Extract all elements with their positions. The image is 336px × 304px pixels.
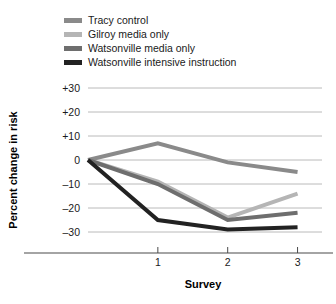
chart-plot-area: +30+20+100–10–20–30 123 Percent change i… xyxy=(0,0,336,304)
chart-x-tick-labels: 123 xyxy=(155,256,301,268)
y-tick-label: –10 xyxy=(62,178,80,190)
chart-axes xyxy=(24,247,333,253)
y-axis-title: Percent change in risk xyxy=(7,110,19,228)
y-tick-label: +10 xyxy=(62,130,80,142)
y-tick-label: +30 xyxy=(62,82,80,94)
y-tick-label: –20 xyxy=(62,202,80,214)
chart-series-group xyxy=(88,143,298,229)
chart-y-tick-labels: +30+20+100–10–20–30 xyxy=(62,82,80,238)
y-tick-label: –30 xyxy=(62,226,80,238)
chart-figure: Tracy control Gilroy media only Watsonvi… xyxy=(0,0,336,304)
x-axis-title: Survey xyxy=(185,278,223,290)
y-tick-label: 0 xyxy=(74,154,80,166)
x-tick-label: 1 xyxy=(155,256,161,268)
y-tick-label: +20 xyxy=(62,106,80,118)
x-tick-label: 2 xyxy=(225,256,231,268)
x-tick-label: 3 xyxy=(295,256,301,268)
chart-svg: +30+20+100–10–20–30 123 Percent change i… xyxy=(0,0,336,304)
